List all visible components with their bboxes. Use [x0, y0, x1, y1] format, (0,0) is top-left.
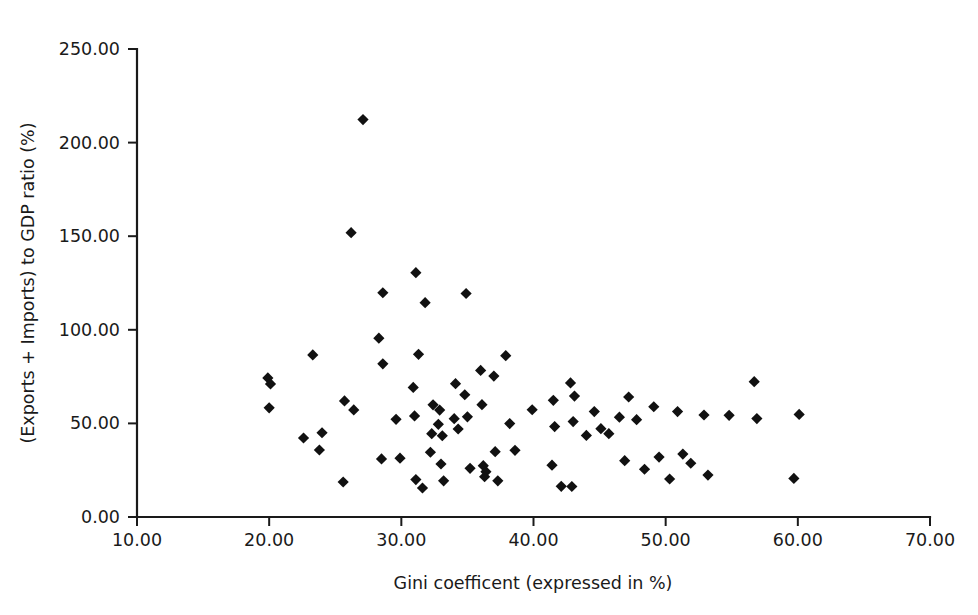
y-tick-label: 0.00 — [81, 507, 120, 527]
y-tick-label: 100.00 — [59, 320, 120, 340]
data-point-marker — [314, 444, 325, 455]
data-point-marker — [556, 481, 567, 492]
data-point-marker — [648, 401, 659, 412]
x-tick-label: 30.00 — [376, 530, 426, 550]
x-tick-label: 70.00 — [905, 530, 955, 550]
x-tick-label: 20.00 — [244, 530, 294, 550]
data-point-marker — [433, 419, 444, 430]
y-axis-ticks: 0.0050.00100.00150.00200.00250.00 — [59, 39, 137, 527]
data-point-marker — [685, 458, 696, 469]
data-point-marker — [409, 410, 420, 421]
data-point-marker — [377, 287, 388, 298]
x-tick-label: 10.00 — [112, 530, 162, 550]
data-point-marker — [376, 453, 387, 464]
data-point-marker — [438, 475, 449, 486]
data-point-marker — [453, 423, 464, 434]
data-point-marker — [751, 413, 762, 424]
data-point-marker — [698, 409, 709, 420]
data-point-marker — [653, 451, 664, 462]
data-point-marker — [316, 427, 327, 438]
data-point-marker — [490, 446, 501, 457]
x-tick-label: 50.00 — [641, 530, 691, 550]
data-point-marker — [639, 464, 650, 475]
data-point-marker — [459, 389, 470, 400]
data-point-marker — [413, 349, 424, 360]
scatter-plot-figure: 0.0050.00100.00150.00200.00250.00 10.002… — [0, 0, 978, 615]
data-point-marker — [450, 378, 461, 389]
plot-canvas: 0.0050.00100.00150.00200.00250.00 10.002… — [0, 0, 978, 615]
x-axis-title: Gini coefficent (expressed in %) — [394, 573, 673, 593]
data-point-marker — [460, 288, 471, 299]
x-tick-label: 60.00 — [773, 530, 823, 550]
data-point-marker — [437, 430, 448, 441]
data-point-marker — [307, 349, 318, 360]
data-point-marker — [623, 391, 634, 402]
data-point-marker — [568, 416, 579, 427]
data-point-marker — [420, 297, 431, 308]
data-point-marker — [631, 414, 642, 425]
data-point-marker — [425, 447, 436, 458]
data-point-marker — [788, 473, 799, 484]
data-point-marker — [346, 227, 357, 238]
data-point-marker — [435, 458, 446, 469]
data-point-marker — [565, 377, 576, 388]
data-point-marker — [614, 412, 625, 423]
data-point-marker — [377, 358, 388, 369]
data-point-marker — [373, 333, 384, 344]
data-point-marker — [417, 482, 428, 493]
axes-group — [137, 49, 930, 517]
data-point-marker — [426, 428, 437, 439]
data-point-marker — [794, 409, 805, 420]
data-point-marker — [581, 430, 592, 441]
data-point-marker — [749, 376, 760, 387]
y-tick-label: 250.00 — [59, 39, 120, 59]
data-point-marker — [475, 365, 486, 376]
data-point-marker — [566, 481, 577, 492]
data-point-marker — [569, 390, 580, 401]
data-point-marker — [549, 421, 560, 432]
data-point-marker — [394, 453, 405, 464]
data-point-marker — [500, 350, 511, 361]
data-point-marker — [339, 395, 350, 406]
data-point-marker — [724, 410, 735, 421]
data-point-marker — [390, 414, 401, 425]
data-point-marker — [338, 476, 349, 487]
data-point-marker — [548, 395, 559, 406]
data-point-marker — [504, 418, 515, 429]
data-point-marker — [264, 402, 275, 413]
x-axis-ticks: 10.0020.0030.0040.0050.0060.0070.00 — [112, 517, 955, 550]
data-point-marker — [702, 469, 713, 480]
y-tick-label: 200.00 — [59, 133, 120, 153]
x-tick-label: 40.00 — [508, 530, 558, 550]
data-point-marker — [348, 404, 359, 415]
data-point-marker — [677, 449, 688, 460]
data-point-marker — [619, 455, 630, 466]
data-point-marker — [546, 460, 557, 471]
y-tick-label: 50.00 — [70, 413, 120, 433]
data-point-marker — [357, 114, 368, 125]
data-point-marker — [462, 411, 473, 422]
y-tick-label: 150.00 — [59, 226, 120, 246]
data-point-marker — [488, 370, 499, 381]
data-point-marker — [527, 404, 538, 415]
data-point-marker — [410, 474, 421, 485]
y-axis-title: (Exports + Imports) to GDP ratio (%) — [18, 122, 38, 443]
data-point-marker — [464, 463, 475, 474]
data-point-marker — [476, 399, 487, 410]
data-point-marker — [449, 413, 460, 424]
data-point-marker — [408, 382, 419, 393]
data-point-marker — [298, 432, 309, 443]
data-point-marker — [589, 406, 600, 417]
scatter-markers-group — [262, 114, 805, 494]
data-point-marker — [410, 267, 421, 278]
data-point-marker — [672, 406, 683, 417]
data-point-marker — [509, 445, 520, 456]
data-point-marker — [492, 475, 503, 486]
data-point-marker — [664, 473, 675, 484]
